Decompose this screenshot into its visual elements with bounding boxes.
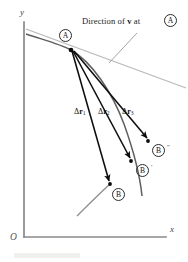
point-b-badge: B: [112, 188, 125, 201]
delta-r-2-arrow: [73, 51, 130, 158]
bottom-band: [14, 253, 80, 258]
caption-point-a-label: A: [168, 16, 173, 25]
caption-point-a-badge: A: [164, 14, 177, 27]
point-a-dot: [69, 48, 74, 53]
point-b-prime-badge: B: [136, 164, 149, 177]
delta-r-1-subscript: 1: [83, 110, 86, 116]
point-b-dot: [108, 182, 112, 186]
point-b-label: B: [116, 190, 121, 199]
point-b-prime-dot: [129, 159, 133, 163]
delta-r-1-label: Δr1: [74, 108, 86, 117]
delta-r-3-label: Δr3: [122, 108, 134, 117]
figure-canvas: [0, 0, 188, 262]
point-b-prime-label: B: [140, 166, 145, 175]
point-b-double-prime-badge: B: [152, 144, 165, 157]
x-axis-label: x: [170, 225, 174, 234]
point-b-double-prime-mark: ″: [167, 143, 170, 151]
y-axis-label: y: [20, 8, 24, 17]
point-a-label: A: [63, 31, 68, 40]
velocity-direction-caption: Direction of v at: [82, 17, 140, 26]
caption-text-before: Direction of: [82, 16, 127, 26]
trajectory-curve-tail: [77, 184, 110, 216]
origin-label: O: [10, 233, 17, 243]
delta-r-3-subscript: 3: [131, 110, 134, 116]
trajectory-figure: y x O Direction of v at A A Δr1 Δr2 Δr3 …: [0, 0, 188, 262]
caption-text-after: at: [132, 16, 141, 26]
point-a-badge: A: [59, 29, 72, 42]
point-b-prime-mark: ′: [151, 163, 153, 171]
delta-r-2-label: Δr2: [98, 108, 110, 117]
velocity-direction-line: [26, 29, 186, 88]
point-b-double-prime-label: B: [156, 146, 161, 155]
point-b-double-prime-dot: [146, 139, 150, 143]
caption-leader-line: [109, 33, 137, 63]
delta-r-2-subscript: 2: [107, 110, 110, 116]
